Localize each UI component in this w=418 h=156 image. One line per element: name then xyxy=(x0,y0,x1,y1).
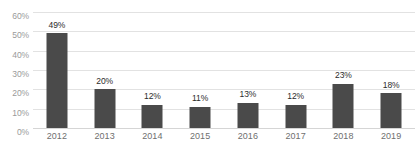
y-axis-tick-label: 50% xyxy=(12,31,29,40)
bar-chart: 60%50%40%30%20%10%0% 49%20%12%11%13%12%2… xyxy=(0,0,418,156)
bars: 49%20%12%11%13%12%23%18% xyxy=(33,12,415,128)
x-axis-tick-label: 2018 xyxy=(320,132,368,141)
bar-slot: 11% xyxy=(176,12,224,128)
axis-baseline xyxy=(33,128,415,129)
bar-slot: 23% xyxy=(320,12,368,128)
bar[interactable] xyxy=(285,105,306,128)
chart-title-cropped xyxy=(0,0,418,7)
x-axis-tick-label: 2016 xyxy=(224,132,272,141)
bar[interactable] xyxy=(190,107,211,128)
y-axis-tick-label: 60% xyxy=(12,12,29,21)
x-axis-tick-label: 2015 xyxy=(176,132,224,141)
bar[interactable] xyxy=(94,89,115,128)
bar-slot: 12% xyxy=(272,12,320,128)
x-axis-tick-label: 2019 xyxy=(367,132,415,141)
bar[interactable] xyxy=(142,105,163,128)
bar[interactable] xyxy=(381,93,402,128)
x-axis-tick-label: 2012 xyxy=(33,132,81,141)
x-axis-tick-label: 2014 xyxy=(129,132,177,141)
bar-value-label: 12% xyxy=(287,92,304,101)
y-axis-tick-label: 40% xyxy=(12,51,29,60)
bar[interactable] xyxy=(46,33,67,128)
y-axis-tick-label: 30% xyxy=(12,70,29,79)
bar-value-label: 13% xyxy=(240,90,257,99)
bar-slot: 13% xyxy=(224,12,272,128)
y-axis-tick-label: 20% xyxy=(12,89,29,98)
plot-area: 49%20%12%11%13%12%23%18% xyxy=(33,12,415,128)
bar-value-label: 20% xyxy=(96,77,113,86)
y-axis: 60%50%40%30%20%10%0% xyxy=(0,8,31,130)
bar[interactable] xyxy=(237,103,258,128)
bar-slot: 18% xyxy=(367,12,415,128)
bar-value-label: 23% xyxy=(335,71,352,80)
bar-slot: 20% xyxy=(81,12,129,128)
bar-slot: 12% xyxy=(129,12,177,128)
bar[interactable] xyxy=(333,84,354,128)
x-axis-tick-label: 2017 xyxy=(272,132,320,141)
x-axis: 20122013201420152016201720182019 xyxy=(33,132,415,148)
bar-slot: 49% xyxy=(33,12,81,128)
x-axis-tick-label: 2013 xyxy=(81,132,129,141)
y-axis-tick-label: 10% xyxy=(12,109,29,118)
bar-value-label: 11% xyxy=(192,94,208,103)
bar-value-label: 18% xyxy=(383,81,400,90)
y-axis-tick-label: 0% xyxy=(17,128,29,137)
bar-value-label: 12% xyxy=(144,92,161,101)
bar-value-label: 49% xyxy=(49,21,66,30)
